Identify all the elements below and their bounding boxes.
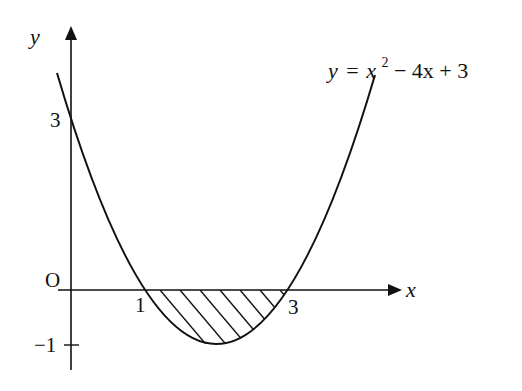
x-axis-label: x xyxy=(405,277,416,302)
svg-text:y = x 2: y = x 2 − 4x + 3 xyxy=(326,47,468,83)
function-label-exponent: 2 xyxy=(381,55,388,70)
tick-label-y-three: 3 xyxy=(50,108,61,132)
function-label-rest: − 4x + 3 xyxy=(394,58,468,83)
y-axis-arrow-icon xyxy=(65,26,77,40)
parabola-curve xyxy=(57,73,375,344)
x-axis-arrow-icon xyxy=(388,284,402,296)
tick-label-x-one: 1 xyxy=(135,293,146,317)
tick-label-y-neg-one: −1 xyxy=(34,333,56,357)
function-graph: y x O 3 1 3 −1 y = x 2 − 4x + 3 xyxy=(0,0,522,391)
function-label-x: x xyxy=(365,58,376,83)
hatched-region xyxy=(160,290,335,355)
y-axis-label: y xyxy=(28,24,40,49)
function-label: y = x 2 − 4x + 3 xyxy=(326,47,468,83)
function-label-eq: = xyxy=(346,58,358,83)
origin-label: O xyxy=(45,268,60,292)
tick-label-x-three: 3 xyxy=(288,295,299,319)
function-label-y: y xyxy=(326,58,338,83)
